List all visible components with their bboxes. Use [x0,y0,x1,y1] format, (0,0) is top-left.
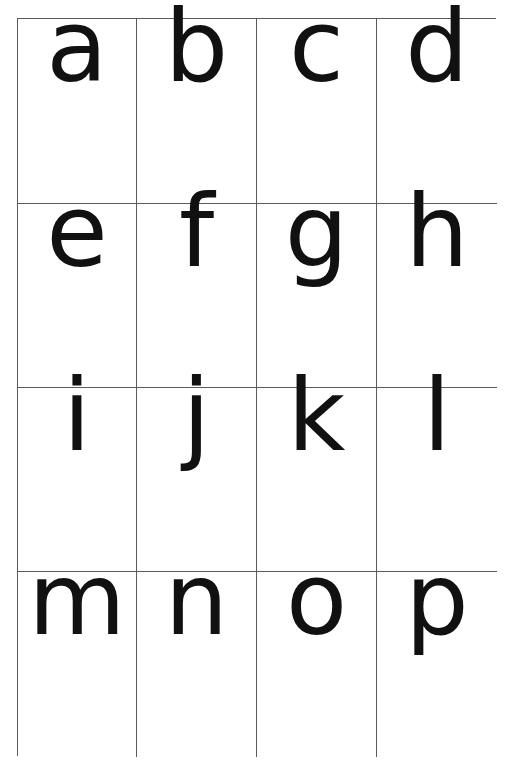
card-letter: e [18,182,136,282]
card-letter: f [137,182,256,282]
letter-card-n: n [137,572,257,757]
card-letter: b [137,0,256,97]
card-letter: o [257,550,376,650]
card-letter: k [257,366,376,466]
card-letter: h [377,182,497,282]
card-letter: d [377,0,497,97]
letter-card-o: o [257,572,377,757]
card-letter: g [257,182,376,282]
card-letter: p [377,550,497,650]
letter-card-p: p [377,572,497,757]
card-letter: j [137,366,256,466]
card-letter: l [377,366,497,466]
card-letter: i [18,366,136,466]
card-letter: n [137,550,256,650]
card-letter: a [18,0,136,97]
letter-card-grid: a b c d e f g h i j k l m n o p [17,18,496,756]
card-letter: c [257,0,376,97]
letter-card-m: m [18,572,137,757]
card-letter: m [18,550,136,650]
